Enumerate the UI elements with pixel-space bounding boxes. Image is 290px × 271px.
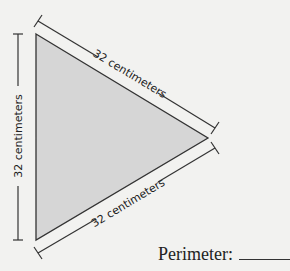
answer-blank[interactable]	[239, 245, 290, 260]
left-side-label: 32 centimeters	[12, 94, 25, 178]
triangle-diagram: 32 centimeters 32 centimeters 32 centime…	[0, 0, 290, 271]
perimeter-label: Perimeter:	[158, 244, 233, 264]
perimeter-question: Perimeter:	[158, 244, 290, 265]
